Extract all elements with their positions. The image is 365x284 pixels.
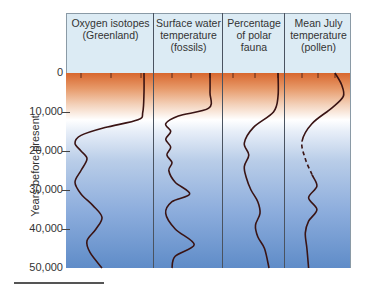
data-curve — [75, 73, 144, 268]
chart-curves — [0, 0, 365, 284]
data-curve — [166, 73, 212, 268]
data-curve — [244, 73, 278, 268]
data-curve — [302, 73, 344, 268]
